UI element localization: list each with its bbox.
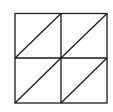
diagonal-top-left-cell <box>15 14 61 59</box>
diagonal-bottom-left-cell <box>15 58 61 103</box>
grid-diagram <box>0 0 113 112</box>
diagonal-bottom-right-cell <box>61 58 107 103</box>
diagonal-top-right-cell <box>61 14 107 59</box>
